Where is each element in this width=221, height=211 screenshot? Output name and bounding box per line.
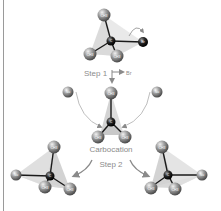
atom-label: CH3 (158, 146, 165, 150)
leaving-group-label: Br (126, 70, 132, 76)
atom-label: CH3 (171, 188, 178, 192)
step2-annotation: Step 2 (74, 160, 148, 176)
atom-label: CH3 (107, 92, 114, 96)
atom-label: CH3 (147, 187, 154, 191)
nucleophile-attack-arrow-icon (123, 92, 150, 127)
right-product-arrow-icon (130, 160, 148, 176)
atom-label: CH3 (50, 146, 57, 150)
sn1-mechanism-diagram: CH3 CH3 CH3 C Br Step 1 Br Nu Nu CH3 CH3 (0, 0, 221, 211)
atom-label: CH3 (66, 188, 73, 192)
atom-label: Nu (14, 173, 19, 177)
left-product-arrow-icon (74, 160, 92, 176)
atom-label: CH3 (94, 136, 101, 140)
reactant-molecule: CH3 CH3 CH3 C Br (84, 9, 149, 63)
atom-label: Nu (200, 173, 205, 177)
right-product-molecule: CH3 CH3 CH3 Nu C (145, 141, 208, 196)
nucleophile-attack-arrow-icon (76, 92, 101, 127)
atom-label: CH3 (41, 186, 48, 190)
carbocation-label: Carbocation (89, 145, 132, 154)
atom-label: Nu (66, 90, 71, 94)
atom-label: Nu (155, 90, 160, 94)
atom-label: CH3 (113, 55, 120, 59)
step1-annotation: Step 1 Br (84, 69, 132, 82)
atom-label: CH3 (100, 14, 107, 18)
atom-label: CH3 (86, 53, 93, 57)
step1-label: Step 1 (84, 69, 108, 78)
left-product-molecule: CH3 Nu CH3 CH3 C (11, 141, 77, 196)
atom-label: CH3 (121, 136, 128, 140)
step2-label: Step 2 (99, 160, 123, 169)
carbocation-molecule: Nu Nu CH3 CH3 CH3 C (63, 87, 163, 144)
